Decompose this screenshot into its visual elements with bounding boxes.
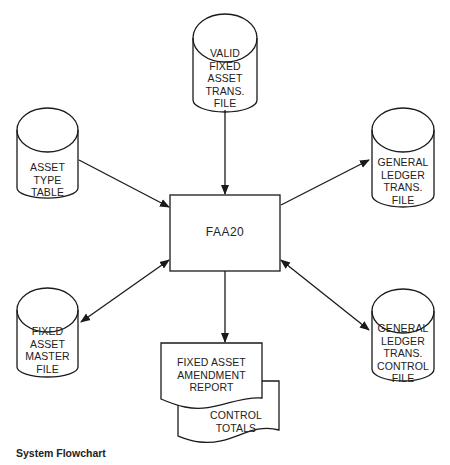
label-general-ledger-trans-file: GENERALLEDGERTRANS.FILE [372, 156, 434, 206]
figure-caption: System Flowchart [16, 447, 106, 459]
edge-faa20-to-gl-trans [281, 160, 369, 205]
label-control-totals: CONTROLTOTALS [196, 409, 276, 434]
edge-faa20-control-file [281, 260, 369, 330]
label-fixed-asset-master-file: FIXEDASSETMASTERFILE [17, 325, 78, 375]
edge-asset-type-to-faa20 [79, 160, 169, 207]
label-asset-type-table: ASSETTYPETABLE [17, 161, 78, 199]
edge-faa20-master-file [81, 260, 169, 322]
label-general-ledger-trans-control-file: GENERALLEDGERTRANS.CONTROLFILE [372, 322, 434, 385]
label-fixed-asset-amendment-report: FIXED ASSETAMENDMENTREPORT [161, 356, 262, 394]
label-process-faa20: FAA20 [170, 226, 280, 239]
label-valid-fixed-asset-trans-file: VALIDFIXEDASSETTRANS.FILE [193, 47, 257, 110]
